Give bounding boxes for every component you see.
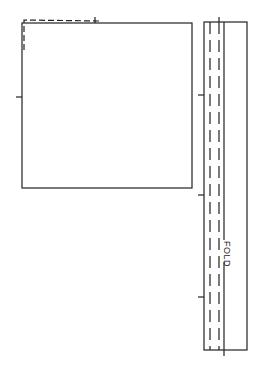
fold-label: FOLD: [222, 241, 232, 267]
square-dashed-corner: [24, 20, 100, 50]
square-panel: [16, 17, 192, 188]
strip-panel: [198, 17, 247, 356]
pattern-diagram: [0, 0, 255, 382]
square-outline: [22, 23, 192, 188]
